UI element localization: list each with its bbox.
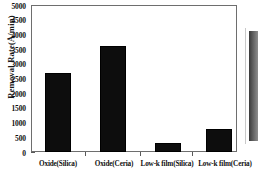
x-tick-mark-3 (192, 152, 193, 156)
x-tick-mark-1 (85, 152, 86, 156)
y-tick-label-0: 0 (0, 149, 26, 158)
scrollbar-thumb[interactable] (249, 31, 258, 141)
y-tick-mark-0 (31, 152, 35, 153)
x-tick-label-lowk-film-ceria: Low-k film(Ceria) (194, 160, 256, 168)
y-tick-label-4500: 4500 (0, 16, 26, 25)
y-tick-label-1000: 1000 (0, 119, 26, 128)
x-tick-mark-2 (140, 152, 141, 156)
y-tick-label-1500: 1500 (0, 104, 26, 113)
y-tick-label-4000: 4000 (0, 31, 26, 40)
bar-lowk-film-ceria (206, 129, 232, 152)
y-tick-label-3000: 3000 (0, 60, 26, 69)
bar-lowk-film-silica (155, 143, 181, 152)
bar-oxide-silica (45, 73, 71, 152)
bar-chart-figure: Removal Rate(Å/min) 5000 4500 4000 3500 … (0, 0, 258, 174)
y-tick-label-3500: 3500 (0, 46, 26, 55)
scrollbar-track-line (245, 28, 246, 144)
y-tick-label-2500: 2500 (0, 75, 26, 84)
x-tick-label-lowk-film-silica: Low-k film(Silica) (136, 160, 198, 168)
y-tick-label-5000: 5000 (0, 2, 26, 11)
bar-oxide-ceria (100, 46, 126, 152)
y-tick-label-500: 500 (0, 134, 26, 143)
x-tick-label-oxide-silica: Oxide(Silica) (28, 160, 88, 168)
y-tick-label-2000: 2000 (0, 90, 26, 99)
x-tick-label-oxide-ceria: Oxide(Ceria) (85, 160, 143, 168)
